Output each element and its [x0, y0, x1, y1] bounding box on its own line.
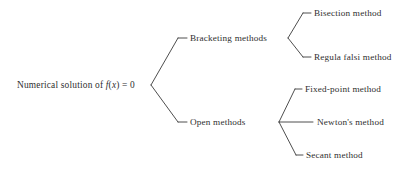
tree-diagram: Numerical solution of f(x) = 0 Bracketin… [0, 0, 417, 171]
root-label-prefix: Numerical solution of [17, 80, 106, 90]
node-bracketing-methods: Bracketing methods [190, 33, 267, 44]
node-secant-method: Secant method [306, 150, 363, 161]
node-root: Numerical solution of f(x) = 0 [17, 80, 135, 91]
connector-open-to-secant [279, 122, 296, 155]
connector-root-to-open [151, 85, 178, 122]
node-bisection-method: Bisection method [314, 8, 382, 19]
node-open-methods: Open methods [190, 117, 246, 128]
node-fixed-point-method: Fixed-point method [305, 84, 381, 95]
node-regula-falsi-method: Regula falsi method [314, 52, 392, 63]
connector-bracketing-to-regula-falsi [288, 38, 303, 57]
node-newtons-method: Newton's method [317, 117, 384, 128]
connector-root-to-bracketing [151, 38, 178, 85]
root-label-suffix: ) = 0 [116, 80, 135, 90]
connector-open-to-fixed-point [279, 89, 295, 122]
connector-bracketing-to-bisection [288, 13, 303, 38]
